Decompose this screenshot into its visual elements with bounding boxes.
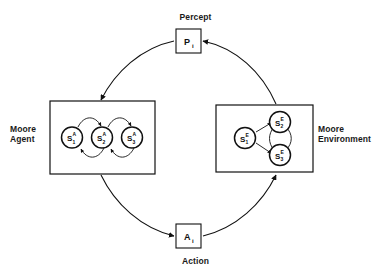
agent-state-1: S A 1: [62, 127, 83, 148]
env-state-2: S E 2: [270, 112, 291, 133]
loop-arrow-action-to-environment: [203, 175, 276, 236]
agent-state-1-subscript: 1: [73, 139, 76, 145]
moore-environment-label: Moore Environment: [318, 124, 388, 144]
percept-label: Percept: [0, 12, 391, 22]
loop-arrow-percept-to-agent: [101, 41, 174, 100]
moore-agent-box: S A 1 S A 2 S A 3: [50, 101, 155, 174]
env-state-1-subscript: 1: [246, 139, 249, 145]
moore-environment-box: S E 1 S E 2 S E 3: [216, 105, 313, 172]
action-label: Action: [0, 256, 391, 266]
agent-state-1-superscript: A: [73, 131, 77, 137]
agent-state-3-superscript: A: [133, 131, 137, 137]
agent-state-2-superscript: A: [103, 131, 107, 137]
agent-state-2: S A 2: [92, 127, 113, 148]
env-state-3-subscript: 3: [281, 156, 284, 162]
agent-state-3: S A 3: [122, 127, 143, 148]
percept-symbol: P: [184, 37, 190, 47]
env-state-1: S E 1: [235, 128, 256, 149]
loop-arrow-environment-to-percept: [203, 41, 276, 104]
action-symbol: A: [184, 232, 191, 242]
agent-state-3-subscript: 3: [133, 139, 136, 145]
percept-box: P i: [176, 29, 201, 53]
agent-state-2-subscript: 2: [103, 139, 106, 145]
loop-arrow-agent-to-action: [101, 175, 174, 236]
env-state-2-subscript: 2: [281, 123, 284, 129]
action-box: A i: [176, 224, 201, 248]
diagram-canvas: P i A i S A 1: [0, 0, 391, 278]
moore-agent-label: Moore Agent: [10, 124, 54, 144]
env-state-3: S E 3: [270, 145, 291, 166]
